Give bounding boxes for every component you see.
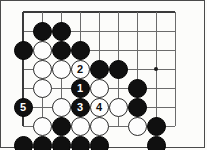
black-move-3[interactable]: 3: [71, 98, 90, 117]
stone-black[interactable]: [109, 60, 128, 79]
stone-white[interactable]: [90, 117, 109, 136]
go-diagram-root: 21534: [0, 0, 207, 150]
stone-black[interactable]: [52, 117, 71, 136]
stone-move-number: 3: [77, 102, 83, 113]
stone-white[interactable]: [33, 117, 52, 136]
stone-white[interactable]: [109, 98, 128, 117]
stone-move-number: 1: [77, 83, 83, 94]
stone-white[interactable]: [90, 79, 109, 98]
stone-black[interactable]: [52, 136, 71, 151]
stone-black[interactable]: [33, 22, 52, 41]
stone-white[interactable]: [33, 41, 52, 60]
stone-black[interactable]: [147, 136, 166, 151]
stone-black[interactable]: [71, 136, 90, 151]
stone-black[interactable]: [33, 136, 52, 151]
white-move-4[interactable]: 4: [90, 98, 109, 117]
stone-black[interactable]: [90, 60, 109, 79]
stone-black[interactable]: [147, 117, 166, 136]
stone-black[interactable]: [71, 41, 90, 60]
stone-black[interactable]: [14, 41, 33, 60]
star-point: [154, 67, 158, 71]
white-move-2[interactable]: 2: [71, 60, 90, 79]
black-move-5[interactable]: 5: [14, 98, 33, 117]
stone-move-number: 4: [96, 102, 102, 113]
stone-white[interactable]: [33, 79, 52, 98]
stone-black[interactable]: [128, 98, 147, 117]
grid-line-vertical: [175, 12, 176, 126]
stone-white[interactable]: [128, 117, 147, 136]
stone-white[interactable]: [52, 98, 71, 117]
stone-black[interactable]: [52, 22, 71, 41]
black-move-1[interactable]: 1: [71, 79, 90, 98]
stone-white[interactable]: [33, 60, 52, 79]
stone-black[interactable]: [90, 136, 109, 151]
stone-black[interactable]: [52, 41, 71, 60]
stone-move-number: 5: [20, 102, 26, 113]
go-board[interactable]: 21534: [0, 0, 207, 150]
stone-white[interactable]: [52, 60, 71, 79]
stone-move-number: 2: [77, 64, 83, 75]
stone-black[interactable]: [128, 79, 147, 98]
stone-white[interactable]: [71, 117, 90, 136]
stone-black[interactable]: [14, 136, 33, 151]
